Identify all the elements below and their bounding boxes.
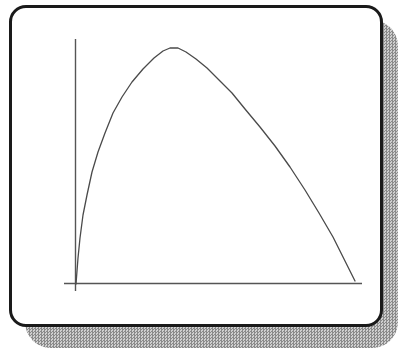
function-plot [0, 0, 410, 363]
screenshot-stage [0, 0, 410, 363]
curve-line [76, 48, 355, 284]
